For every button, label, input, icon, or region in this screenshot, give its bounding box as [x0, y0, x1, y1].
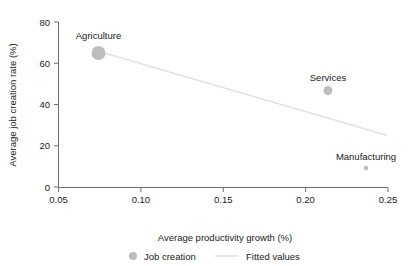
scatter-chart: 80 60 40 20 0 0.05 0.10 0.15 0.20 0.25 A…	[0, 0, 416, 267]
x-tick-label-015: 0.15	[214, 194, 233, 205]
y-tick-label-80: 80	[39, 17, 50, 28]
fitted-values-line	[99, 52, 386, 136]
x-tick-label-005: 0.05	[49, 194, 68, 205]
chart-legend: Job creation Fitted values	[129, 251, 300, 262]
y-axis-title: Average job creation rate (%)	[7, 43, 18, 166]
point-label-agriculture: Agriculture	[76, 30, 121, 41]
y-tick-label-40: 40	[39, 99, 50, 110]
y-tick-label-0: 0	[45, 182, 50, 193]
y-tick-label-60: 60	[39, 58, 50, 69]
point-label-manufacturing: Manufacturing	[336, 151, 396, 162]
x-tick-label-025: 0.25	[379, 194, 398, 205]
data-point-services	[324, 86, 333, 95]
legend-marker-job-creation	[129, 252, 137, 260]
x-tick-label-010: 0.10	[132, 194, 151, 205]
x-tick-label-020: 0.20	[296, 194, 315, 205]
legend-label-job-creation: Job creation	[144, 251, 196, 262]
data-point-manufacturing	[364, 166, 368, 170]
legend-label-fitted-values: Fitted values	[246, 251, 300, 262]
x-axis-title: Average productivity growth (%)	[158, 232, 292, 243]
plot-area: 80 60 40 20 0 0.05 0.10 0.15 0.20 0.25 A…	[0, 0, 416, 267]
y-tick-label-20: 20	[39, 140, 50, 151]
point-label-services: Services	[310, 72, 347, 83]
data-point-agriculture	[92, 46, 106, 60]
